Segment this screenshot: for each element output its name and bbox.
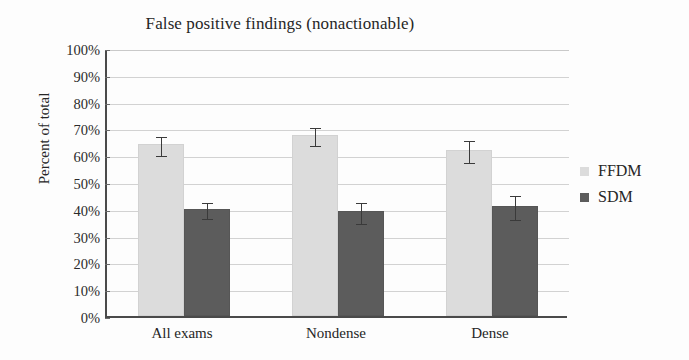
y-axis-tick-mark: [105, 184, 110, 185]
legend-swatch-icon: [580, 167, 589, 176]
y-axis-tick-mark: [105, 291, 110, 292]
error-bar: [161, 137, 162, 156]
error-bar-cap-lower: [202, 219, 213, 220]
y-axis-tick-mark: [105, 318, 110, 319]
gridline: [107, 104, 569, 105]
error-bar-cap-upper: [510, 196, 521, 197]
legend-label: SDM: [598, 188, 633, 206]
y-axis-tick-label: 0%: [44, 310, 100, 327]
chart-page: False positive findings (nonactionable) …: [0, 0, 689, 360]
error-bar-cap-lower: [310, 146, 321, 147]
y-axis-tick-label: 80%: [44, 95, 100, 112]
legend-item-sdm: SDM: [580, 184, 685, 210]
y-axis-tick-label: 70%: [44, 122, 100, 139]
y-axis-tick-label: 90%: [44, 68, 100, 85]
error-bar: [361, 203, 362, 224]
bar-ffdm-dense: [446, 150, 492, 316]
error-bar-cap-upper: [356, 203, 367, 204]
error-bar: [515, 196, 516, 220]
plot-area: [105, 50, 567, 318]
y-axis-tick-mark: [105, 238, 110, 239]
bar-ffdm-all-exams: [138, 144, 184, 316]
error-bar-cap-upper: [310, 128, 321, 129]
y-axis-tick-labels: 0%10%20%30%40%50%60%70%80%90%100%: [38, 50, 100, 318]
y-axis-tick-mark: [105, 211, 110, 212]
bar-sdm-dense: [492, 206, 538, 316]
y-axis-tick-label: 30%: [44, 229, 100, 246]
error-bar-cap-upper: [202, 203, 213, 204]
y-axis-tick-mark: [105, 130, 110, 131]
legend-swatch-icon: [580, 193, 589, 202]
y-axis-tick-mark: [105, 104, 110, 105]
y-axis-tick-mark: [105, 157, 110, 158]
error-bar-cap-lower: [156, 156, 167, 157]
bar-sdm-nondense: [338, 211, 384, 316]
error-bar-cap-upper: [464, 141, 475, 142]
x-axis-tick-label: All exams: [151, 325, 212, 342]
error-bar-cap-upper: [156, 137, 167, 138]
error-bar: [315, 128, 316, 147]
gridline: [107, 77, 569, 78]
y-axis-tick-label: 100%: [44, 42, 100, 59]
legend-item-ffdm: FFDM: [580, 158, 685, 184]
error-bar: [207, 203, 208, 219]
bar-sdm-all-exams: [184, 209, 230, 316]
error-bar-cap-lower: [464, 163, 475, 164]
x-axis-tick-label: Dense: [471, 325, 509, 342]
x-axis-tick-label: Nondense: [306, 325, 366, 342]
bar-ffdm-nondense: [292, 135, 338, 316]
y-axis-tick-mark: [105, 77, 110, 78]
y-axis-tick-label: 40%: [44, 202, 100, 219]
gridline: [107, 130, 569, 131]
y-axis-tick-label: 10%: [44, 283, 100, 300]
y-axis-tick-label: 50%: [44, 176, 100, 193]
y-axis-tick-mark: [105, 264, 110, 265]
legend-label: FFDM: [598, 162, 642, 180]
y-axis-tick-mark: [105, 50, 110, 51]
error-bar-cap-lower: [356, 224, 367, 225]
y-axis-tick-label: 20%: [44, 256, 100, 273]
chart-legend: FFDMSDM: [580, 158, 685, 210]
error-bar: [469, 141, 470, 162]
error-bar-cap-lower: [510, 220, 521, 221]
gridline: [107, 50, 569, 51]
chart-title: False positive findings (nonactionable): [0, 14, 560, 34]
y-axis-tick-label: 60%: [44, 149, 100, 166]
